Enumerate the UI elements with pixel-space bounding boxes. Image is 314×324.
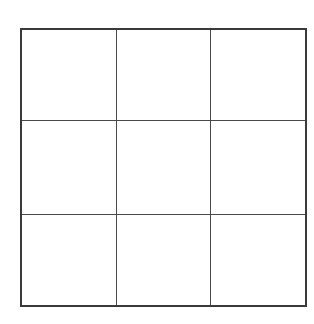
grid-cell[interactable] — [117, 30, 210, 120]
grid-cell[interactable] — [22, 30, 116, 120]
grid-cell[interactable] — [22, 121, 116, 214]
grid-board — [20, 28, 307, 307]
grid-cell[interactable] — [22, 215, 116, 305]
grid-cell[interactable] — [211, 121, 305, 214]
grid-cell[interactable] — [117, 121, 210, 214]
grid-cell[interactable] — [117, 215, 210, 305]
grid-cell[interactable] — [211, 215, 305, 305]
grid-cell[interactable] — [211, 30, 305, 120]
